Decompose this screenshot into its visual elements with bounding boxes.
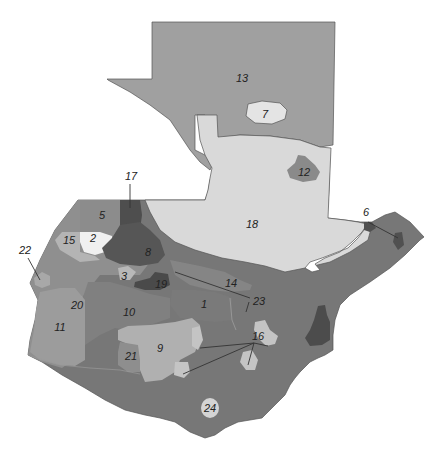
label-6: 6 bbox=[363, 206, 370, 218]
label-19: 19 bbox=[155, 278, 167, 290]
label-17: 17 bbox=[125, 170, 138, 182]
label-10: 10 bbox=[123, 306, 136, 318]
label-7: 7 bbox=[262, 108, 269, 120]
label-1: 1 bbox=[201, 298, 207, 310]
label-18: 18 bbox=[246, 218, 259, 230]
label-22: 21 bbox=[124, 350, 137, 362]
label-23: 23 bbox=[252, 295, 266, 307]
label-20: 20 bbox=[70, 299, 84, 311]
label-3: 3 bbox=[121, 270, 128, 282]
region-map: 13 7 12 17 18 6 5 2 15 8 22 3 19 14 23 1… bbox=[0, 0, 445, 459]
label-16: 16 bbox=[252, 330, 265, 342]
label-11: 11 bbox=[54, 321, 65, 333]
label-13: 13 bbox=[236, 72, 249, 84]
label-2: 2 bbox=[89, 232, 96, 244]
label-15: 15 bbox=[63, 234, 76, 246]
label-21: 22 bbox=[18, 244, 31, 256]
label-24: 24 bbox=[203, 402, 216, 414]
label-8: 8 bbox=[145, 246, 152, 258]
label-14: 14 bbox=[225, 277, 237, 289]
label-12: 12 bbox=[298, 166, 310, 178]
label-9: 9 bbox=[157, 342, 163, 354]
label-5: 5 bbox=[99, 209, 106, 221]
